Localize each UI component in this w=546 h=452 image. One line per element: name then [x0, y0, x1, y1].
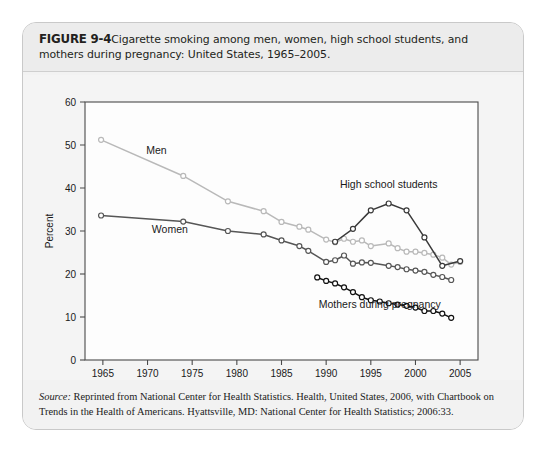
- data-point-marker: [350, 261, 355, 266]
- data-point-marker: [99, 137, 104, 142]
- series-label: Women: [152, 223, 188, 235]
- source-text: Reprinted from National Center for Healt…: [39, 391, 494, 417]
- data-point-marker: [297, 224, 302, 229]
- data-point-marker: [359, 260, 364, 265]
- x-axis-tick-label: 1970: [136, 368, 159, 379]
- data-point-marker: [422, 269, 427, 274]
- x-axis-tick-label: 1995: [360, 368, 383, 379]
- data-point-marker: [368, 244, 373, 249]
- data-point-marker: [440, 255, 445, 260]
- series-label: High school students: [340, 178, 437, 190]
- data-point-marker: [333, 239, 338, 244]
- data-point-marker: [342, 253, 347, 258]
- data-point-marker: [261, 232, 266, 237]
- x-axis-tick-label: 2005: [449, 368, 472, 379]
- y-axis-tick-label: 0: [70, 355, 76, 366]
- data-point-marker: [350, 239, 355, 244]
- data-point-marker: [225, 229, 230, 234]
- data-point-marker: [395, 246, 400, 251]
- data-point-marker: [449, 278, 454, 283]
- series-label: Men: [146, 144, 167, 156]
- figure-number: FIGURE 9-4: [39, 32, 111, 46]
- plot-background: [85, 102, 478, 360]
- x-axis-tick-label: 1990: [315, 368, 338, 379]
- data-point-marker: [422, 235, 427, 240]
- y-axis-tick-label: 10: [65, 312, 77, 323]
- data-point-marker: [297, 244, 302, 249]
- data-point-marker: [386, 241, 391, 246]
- data-point-marker: [368, 208, 373, 213]
- data-point-marker: [458, 259, 463, 264]
- data-point-marker: [404, 249, 409, 254]
- y-axis-tick-label: 50: [65, 140, 77, 151]
- data-point-marker: [279, 219, 284, 224]
- chart-plot-panel: 0102030405060196519701975198019851990199…: [23, 75, 524, 397]
- data-point-marker: [350, 226, 355, 231]
- data-point-marker: [368, 260, 373, 265]
- figure-card: FIGURE 9-4Cigarette smoking among men, w…: [22, 22, 524, 430]
- data-point-marker: [342, 285, 347, 290]
- data-point-marker: [261, 209, 266, 214]
- data-point-marker: [440, 311, 445, 316]
- y-axis-title: Percent: [44, 214, 55, 249]
- data-point-marker: [350, 290, 355, 295]
- x-axis-tick-label: 1980: [226, 368, 249, 379]
- data-point-marker: [333, 258, 338, 263]
- data-point-marker: [279, 238, 284, 243]
- y-axis-tick-label: 20: [65, 269, 77, 280]
- data-point-marker: [315, 275, 320, 280]
- data-point-marker: [404, 208, 409, 213]
- x-axis-tick-label: 1975: [181, 368, 204, 379]
- data-point-marker: [395, 265, 400, 270]
- data-point-marker: [440, 263, 445, 268]
- x-axis-tick-label: 1985: [270, 368, 293, 379]
- data-point-marker: [324, 259, 329, 264]
- data-point-marker: [324, 278, 329, 283]
- data-point-marker: [413, 268, 418, 273]
- line-chart: 0102030405060196519701975198019851990199…: [23, 75, 524, 396]
- data-point-marker: [431, 272, 436, 277]
- data-point-marker: [440, 275, 445, 280]
- data-point-marker: [386, 263, 391, 268]
- data-point-marker: [386, 201, 391, 206]
- data-point-marker: [449, 315, 454, 320]
- y-axis-tick-label: 30: [65, 226, 77, 237]
- data-point-marker: [99, 213, 104, 218]
- source-note: Source: Reprinted from National Center f…: [23, 380, 523, 429]
- data-point-marker: [306, 248, 311, 253]
- data-point-marker: [333, 281, 338, 286]
- data-point-marker: [422, 250, 427, 255]
- data-point-marker: [413, 249, 418, 254]
- source-label: Source:: [39, 391, 71, 402]
- series-label: Mothers during pregnancy: [319, 298, 442, 310]
- figure-caption: FIGURE 9-4Cigarette smoking among men, w…: [23, 23, 523, 72]
- data-point-marker: [306, 227, 311, 232]
- data-point-marker: [404, 267, 409, 272]
- y-axis-tick-label: 40: [65, 183, 77, 194]
- x-axis-tick-label: 1965: [92, 368, 115, 379]
- data-point-marker: [359, 238, 364, 243]
- y-axis-tick-label: 60: [65, 97, 77, 108]
- data-point-marker: [324, 237, 329, 242]
- data-point-marker: [225, 199, 230, 204]
- data-point-marker: [181, 173, 186, 178]
- x-axis-tick-label: 2000: [404, 368, 427, 379]
